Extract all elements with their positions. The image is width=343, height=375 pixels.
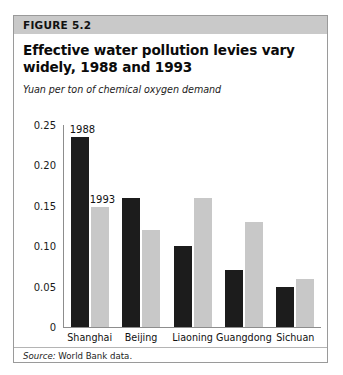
y-axis-tick-label: 0.10 xyxy=(22,241,56,252)
source-note: Source: World Bank data. xyxy=(23,351,132,361)
bar-shanghai-1988 xyxy=(71,137,89,327)
chart-title: Effective water pollution levies vary wi… xyxy=(23,42,317,75)
series-annotation-1993: 1993 xyxy=(90,194,115,205)
bar-beijing-1988 xyxy=(122,198,140,327)
bar-shanghai-1993 xyxy=(91,207,109,327)
y-axis-tick-label: 0.20 xyxy=(22,160,56,171)
source-text: World Bank data. xyxy=(58,351,132,361)
bar-group xyxy=(174,104,212,327)
bar-sichuan-1988 xyxy=(276,287,294,327)
bar-liaoning-1988 xyxy=(174,246,192,327)
bars-layer: 19881993 xyxy=(64,104,321,327)
category-label-liaoning: Liaoning xyxy=(172,332,213,343)
category-label-shanghai: Shanghai xyxy=(67,332,112,343)
title-block: Effective water pollution levies vary wi… xyxy=(14,35,327,95)
y-axis-tick-labels: 00.050.100.150.200.25 xyxy=(22,104,56,332)
bar-group xyxy=(225,104,263,327)
bar-guangdong-1988 xyxy=(225,270,243,327)
source-divider xyxy=(14,347,327,348)
bar-guangdong-1993 xyxy=(245,222,263,327)
bar-liaoning-1993 xyxy=(194,198,212,327)
y-axis-tick-label: 0.05 xyxy=(22,281,56,292)
figure-container: FIGURE 5.2 Effective water pollution lev… xyxy=(13,15,328,363)
bar-sichuan-1993 xyxy=(296,279,314,327)
y-axis-tick-label: 0.15 xyxy=(22,200,56,211)
category-label-sichuan: Sichuan xyxy=(276,332,314,343)
chart-subtitle: Yuan per ton of chemical oxygen demand xyxy=(23,84,317,95)
bar-group xyxy=(276,104,314,327)
category-label-beijing: Beijing xyxy=(125,332,158,343)
x-axis-line xyxy=(63,327,321,328)
x-axis-category-labels: ShanghaiBeijingLiaoningGuangdongSichuan xyxy=(64,332,321,348)
y-axis-tick-label: 0 xyxy=(22,322,56,333)
bar-beijing-1993 xyxy=(142,230,160,327)
bar-group xyxy=(71,104,109,327)
category-label-guangdong: Guangdong xyxy=(216,332,272,343)
bar-group xyxy=(122,104,160,327)
y-axis-tick-label: 0.25 xyxy=(22,120,56,131)
figure-number-band: FIGURE 5.2 xyxy=(14,16,327,35)
series-annotation-1988: 1988 xyxy=(70,124,95,135)
plot-area: 00.050.100.150.200.25 19881993 xyxy=(14,104,327,332)
source-prefix: Source: xyxy=(23,351,56,361)
figure-number-label: FIGURE 5.2 xyxy=(23,19,91,31)
